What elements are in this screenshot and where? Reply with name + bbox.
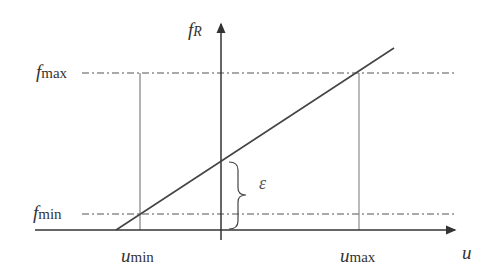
f-min-label: fmin <box>33 203 62 222</box>
epsilon-label: ε <box>259 174 266 192</box>
f-max-label: fmax <box>36 62 67 81</box>
u-min-label: umin <box>121 246 154 265</box>
u-max-label: umax <box>340 246 375 265</box>
u-axis-label: u <box>462 243 472 262</box>
linear-map-diagram <box>0 0 501 280</box>
f-axis-label: fR <box>188 20 202 39</box>
function-line <box>116 48 394 230</box>
epsilon-brace <box>229 162 246 229</box>
